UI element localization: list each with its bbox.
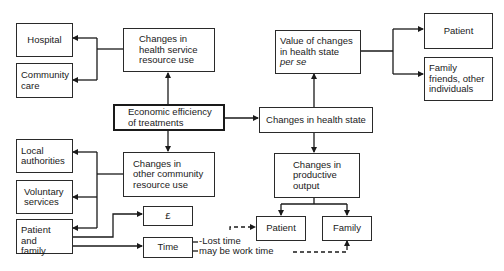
- community-care-box: Community care: [16, 63, 73, 98]
- value-line-3-per-se: per se: [280, 56, 306, 67]
- time-box: Time: [143, 237, 193, 258]
- patient-productive-box: Patient: [256, 216, 306, 241]
- patient-value-label: Patient: [444, 26, 474, 37]
- patient-family-box: Patient and family: [16, 219, 73, 254]
- health-state-box: Changes in health state: [259, 107, 373, 133]
- local-authorities-label: Local authorities: [21, 146, 65, 167]
- health-state-label: Changes in health state: [266, 115, 366, 126]
- money-box: £: [143, 206, 193, 226]
- economic-efficiency-box: Economic efficiency of treatments: [113, 104, 225, 131]
- patient-productive-label: Patient: [266, 223, 296, 234]
- family-productive-label: Family: [333, 223, 361, 234]
- hospital-label: Hospital: [27, 35, 61, 46]
- health-service-resource-box: Changes in health service resource use: [123, 28, 215, 72]
- family-productive-box: Family: [322, 216, 372, 241]
- value-health-state-label: Value of changesin health stateper se: [280, 36, 353, 68]
- value-line-2: in health state: [280, 46, 339, 57]
- local-authorities-box: Local authorities: [16, 139, 73, 173]
- productive-output-box: Changes in productive output: [274, 153, 360, 198]
- patient-value-box: Patient: [424, 13, 493, 49]
- value-line-1: Value of changes: [280, 35, 353, 46]
- community-resource-box: Changes in other community resource use: [123, 152, 215, 197]
- productive-output-label: Changes in productive output: [293, 160, 341, 192]
- community-care-label: Community care: [21, 70, 69, 91]
- work-time-annotation: may be work time: [199, 246, 273, 256]
- family-friends-label: Family friends, other individuals: [429, 63, 484, 95]
- money-label: £: [165, 211, 170, 222]
- value-health-state-box: Value of changesin health stateper se: [275, 30, 361, 74]
- family-friends-box: Family friends, other individuals: [424, 57, 493, 101]
- health-service-resource-label: Changes in health service resource use: [139, 34, 198, 66]
- voluntary-services-label: Voluntary services: [24, 187, 64, 208]
- economic-efficiency-label: Economic efficiency of treatments: [128, 107, 212, 128]
- patient-family-label: Patient and family: [21, 225, 68, 257]
- time-label: Time: [158, 242, 179, 253]
- voluntary-services-box: Voluntary services: [16, 180, 73, 214]
- community-resource-label: Changes in other community resource use: [133, 159, 203, 191]
- hospital-box: Hospital: [16, 23, 73, 57]
